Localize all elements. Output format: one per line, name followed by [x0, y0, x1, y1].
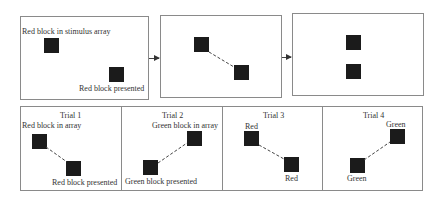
- panel-connected-pair: [160, 15, 282, 98]
- divider: [222, 106, 223, 190]
- block-upper: [346, 35, 361, 50]
- block-lower: [346, 64, 361, 79]
- trial-4-array-block: [390, 129, 405, 144]
- trial-2-array-block: [187, 131, 202, 146]
- trial-2-title: Trial 2: [162, 111, 183, 120]
- block-presented: [234, 65, 249, 80]
- trial-2-array-label: Green block in array: [152, 121, 218, 130]
- arrow-right-icon: [149, 58, 159, 59]
- trial-1-presented-label: Red block presented: [52, 178, 117, 187]
- trial-4-title: Trial 4: [363, 111, 384, 120]
- trial-3-title: Trial 3: [263, 111, 284, 120]
- divider: [322, 106, 323, 190]
- divider: [121, 106, 122, 190]
- red-block-array: [44, 38, 59, 53]
- trial-1-presented-block: [66, 161, 81, 176]
- trial-3-presented-block: [284, 157, 299, 172]
- arrow-right-icon: [282, 57, 291, 58]
- trial-1-array-block: [32, 134, 47, 149]
- trial-4-presented-label: Green: [347, 174, 367, 183]
- trial-2-presented-label: Green block presented: [125, 177, 197, 186]
- trial-2-presented-block: [143, 160, 158, 175]
- label-presented: Red block presented: [79, 84, 144, 93]
- trial-4-presented-block: [350, 158, 365, 173]
- label-stimulus-array: Red block in stimulus array: [22, 27, 110, 36]
- panel-vertical-pair: [292, 13, 424, 96]
- trial-3-array-block: [244, 131, 259, 146]
- trial-3-array-label: Red: [245, 122, 258, 131]
- red-block-presented: [109, 67, 124, 82]
- trial-4-array-label: Green: [386, 120, 406, 129]
- trial-1-title: Trial 1: [60, 111, 81, 120]
- trial-3-presented-label: Red: [285, 174, 298, 183]
- block-array: [194, 37, 209, 52]
- trial-1-array-label: Red block in array: [22, 121, 81, 130]
